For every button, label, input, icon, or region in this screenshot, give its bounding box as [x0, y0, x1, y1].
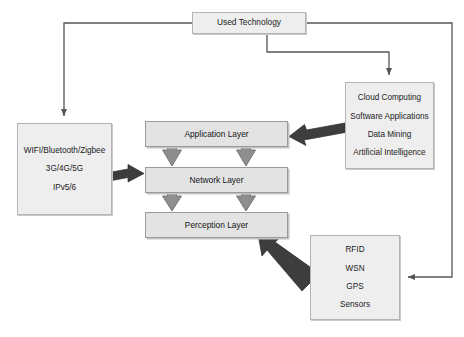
connectivity-line-2: 3G/4G/5G	[46, 164, 83, 173]
box-connectivity-technologies[interactable]: WIFI/Bluetooth/Zigbee 3G/4G/5G IPv5/6	[17, 123, 112, 215]
box-cloud-technologies[interactable]: Cloud Computing Software Applications Da…	[345, 82, 434, 169]
connectivity-line-3: IPv5/6	[53, 183, 76, 192]
thick-arrow-cloud-to-application	[289, 123, 345, 146]
box-used-technology[interactable]: Used Technology	[192, 12, 306, 34]
box-sensor-technologies[interactable]: RFID WSN GPS Sensors	[310, 235, 400, 320]
sensors-line-3: GPS	[346, 282, 363, 291]
cloud-line-1: Cloud Computing	[358, 93, 421, 102]
sensors-line-2: WSN	[345, 264, 364, 273]
cloud-line-4: Artificial Intelligence	[353, 148, 425, 157]
cloud-line-3: Data Mining	[368, 130, 412, 139]
layer-application[interactable]: Application Layer	[145, 121, 288, 147]
sensors-line-4: Sensors	[340, 300, 370, 309]
connector-usedtech-to-connectivity	[64, 23, 192, 116]
diagram-canvas: Used Technology WIFI/Bluetooth/Zigbee 3G…	[0, 0, 464, 337]
layer-perception[interactable]: Perception Layer	[145, 212, 288, 238]
used-technology-label: Used Technology	[217, 18, 281, 28]
layer-network[interactable]: Network Layer	[145, 167, 288, 193]
sensors-line-1: RFID	[345, 245, 364, 254]
thick-arrow-connectivity-to-network	[112, 165, 144, 183]
cloud-line-2: Software Applications	[350, 112, 428, 121]
connectivity-line-1: WIFI/Bluetooth/Zigbee	[24, 146, 105, 155]
connector-usedtech-to-cloud	[267, 34, 389, 75]
